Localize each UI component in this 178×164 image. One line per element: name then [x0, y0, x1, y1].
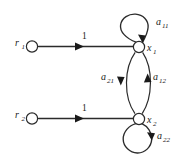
edge-x2-self-loop — [123, 123, 155, 153]
edge-x1-self-loop — [120, 14, 148, 43]
node-r1[interactable] — [26, 41, 37, 52]
edge-weight-a21: a 21 — [101, 71, 114, 85]
edge-weight-a12: a 12 — [153, 71, 167, 85]
node-label-r1: r 1 — [15, 37, 25, 51]
edge-x2-to-x1 — [142, 52, 151, 113]
edge-x2-self-loop-arc — [123, 123, 152, 153]
edge-x1-x2-arc — [126, 52, 135, 113]
edge-x1-x2-arrowhead — [117, 77, 125, 86]
node-label-r1-subscript: 1 — [22, 43, 26, 51]
node-label-r2-subscript: 2 — [22, 115, 26, 123]
node-label-r2: r 2 — [15, 109, 26, 123]
edge-weight-a22: a 22 — [157, 130, 171, 144]
node-label-r2-base: r — [15, 109, 19, 120]
edge-r2-x2-arrowhead — [75, 115, 84, 123]
node-x2[interactable] — [133, 113, 144, 124]
node-label-x2-subscript: 2 — [153, 120, 157, 128]
edge-x2-self-loop-arrowhead — [147, 132, 155, 140]
edge-weight-a11: a 11 — [156, 16, 168, 30]
edge-weight-r1-x1: 1 — [82, 31, 87, 41]
edge-x1-to-x2 — [117, 52, 135, 113]
edge-weight-a21-subscript: 21 — [107, 77, 114, 85]
edge-weight-a12-base: a — [153, 71, 158, 82]
node-label-x1-subscript: 1 — [153, 48, 157, 56]
node-label-x2-base: x — [146, 114, 152, 125]
edge-weight-r2-x2: 1 — [82, 103, 87, 113]
node-label-r1-base: r — [15, 37, 19, 48]
signal-flow-graph-canvas: r 1 r 2 x 1 x 2 1 1 a 11 a 21 — [0, 0, 178, 164]
edge-x2-x1-arc — [142, 52, 150, 113]
edge-weight-a22-subscript: 22 — [163, 136, 171, 144]
node-label-x1-base: x — [146, 42, 152, 53]
edge-weight-a21-base: a — [101, 71, 106, 82]
edge-r2-to-x2 — [39, 115, 134, 123]
node-r2[interactable] — [26, 113, 37, 124]
edge-weight-a22-base: a — [157, 130, 162, 141]
edge-weight-a12-subscript: 12 — [159, 77, 167, 85]
node-label-x2: x 2 — [146, 114, 157, 128]
node-label-x1: x 1 — [146, 42, 157, 56]
edge-r1-to-x1 — [39, 43, 134, 51]
edge-weight-a11-subscript: 11 — [162, 22, 168, 30]
edge-r1-x1-arrowhead — [75, 43, 84, 51]
edge-weight-a11-base: a — [156, 16, 161, 27]
node-x1[interactable] — [133, 41, 144, 52]
signal-flow-graph-figure: r 1 r 2 x 1 x 2 1 1 a 11 a 21 — [0, 0, 178, 164]
